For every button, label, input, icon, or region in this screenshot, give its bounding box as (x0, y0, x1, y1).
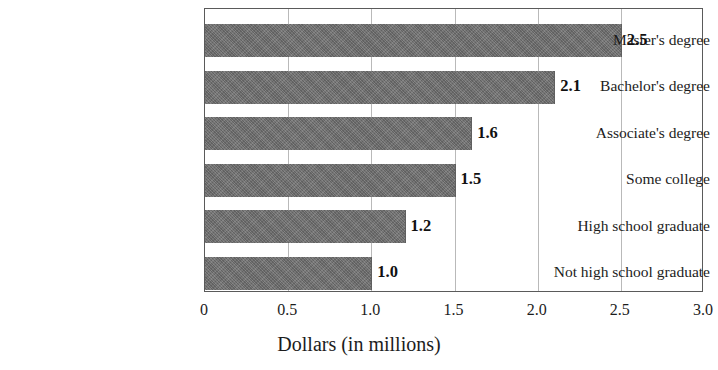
x-tick-label: 0.5 (277, 302, 297, 318)
bar-chart: Master's degreeBachelor's degreeAssociat… (0, 0, 718, 370)
x-axis-title: Dollars (in millions) (0, 334, 718, 354)
bar-value-label: 2.1 (560, 78, 581, 95)
x-tick-label: 0 (200, 302, 208, 318)
x-tick-label: 2.5 (610, 302, 630, 318)
bar (205, 257, 372, 290)
bar-value-label: 1.2 (411, 218, 432, 235)
category-label: Master's degree (522, 32, 718, 48)
x-tick-label: 3.0 (693, 302, 713, 318)
bar (205, 210, 406, 243)
bar-value-label: 1.5 (461, 171, 482, 188)
category-label: Bachelor's degree (522, 78, 718, 94)
x-tick-label: 1.5 (444, 302, 464, 318)
bar-value-label: 1.0 (377, 264, 398, 281)
category-label: Some college (522, 171, 718, 187)
category-label: Not high school graduate (522, 264, 718, 280)
bar-value-label: 1.6 (477, 125, 498, 142)
category-label: High school graduate (522, 218, 718, 234)
bar-value-label: 2.5 (627, 32, 648, 49)
plot-area (204, 8, 703, 292)
bars-layer (205, 9, 702, 291)
bar (205, 164, 456, 197)
bar (205, 71, 555, 104)
x-tick-label: 2.0 (527, 302, 547, 318)
category-label: Associate's degree (522, 125, 718, 141)
bar (205, 117, 472, 150)
x-tick-label: 1.0 (360, 302, 380, 318)
